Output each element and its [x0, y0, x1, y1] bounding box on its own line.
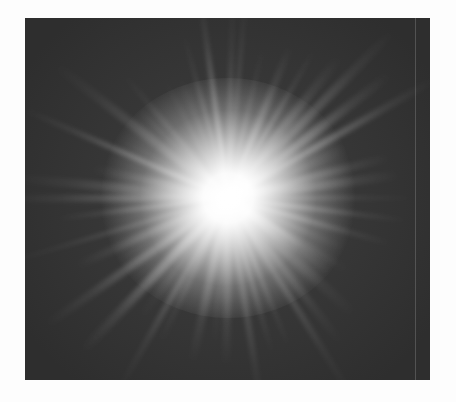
- vertical-line-artifact: [415, 18, 416, 380]
- center-glow: [98, 78, 358, 318]
- starburst-image: [25, 18, 430, 380]
- canvas: [0, 0, 456, 402]
